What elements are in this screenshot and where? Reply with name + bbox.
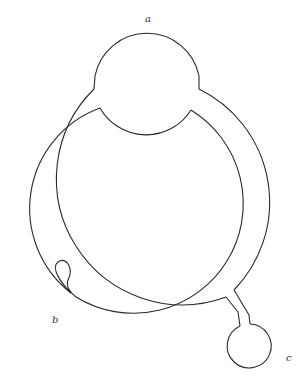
inner-ring-lower — [76, 110, 243, 313]
stem-c — [226, 290, 250, 326]
label-a: a — [145, 13, 151, 24]
label-c: c — [286, 352, 292, 363]
top-bubble-outer-arc — [94, 33, 199, 89]
label-b: b — [52, 314, 58, 325]
outer-ring-boundary — [56, 89, 269, 305]
diagram-canvas: a b c — [0, 0, 305, 380]
loop-b — [55, 260, 76, 297]
top-bubble-inner-arc — [100, 108, 191, 135]
inner-ring-boundary — [30, 108, 100, 293]
bulb-c — [227, 324, 271, 368]
